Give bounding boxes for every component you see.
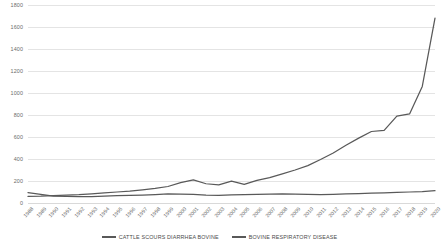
x-tick-label-2013: 2013 xyxy=(340,206,352,219)
series-line-2 xyxy=(28,18,435,196)
x-tick-label-1997: 1997 xyxy=(137,206,149,219)
y-tick-label-400: 400 xyxy=(14,156,23,162)
x-tick-label-2009: 2009 xyxy=(289,206,301,219)
x-tick-label-1991: 1991 xyxy=(60,206,72,219)
x-tick-label-2014: 2014 xyxy=(353,206,365,219)
x-tick-label-2017: 2017 xyxy=(391,206,403,219)
series-layer xyxy=(28,5,435,203)
x-tick-label-2011: 2011 xyxy=(315,206,327,218)
chart-legend: CATTLE SCOURS DIARRHEA BOVINEBOVINE RESP… xyxy=(0,231,439,243)
x-tick-label-1990: 1990 xyxy=(48,206,60,219)
x-tick-label-2000: 2000 xyxy=(175,206,187,219)
gridline-0 xyxy=(28,203,435,204)
x-tick-label-1998: 1998 xyxy=(149,206,161,219)
y-tick-label-0: 0 xyxy=(20,200,23,206)
x-tick-label-1999: 1999 xyxy=(162,206,174,219)
x-tick-label-2018: 2018 xyxy=(404,206,416,219)
x-tick-label-2001: 2001 xyxy=(187,206,199,219)
x-axis: 1988198919901991199219931994199519961997… xyxy=(28,205,435,231)
x-tick-label-2010: 2010 xyxy=(302,206,314,219)
legend-swatch-icon xyxy=(232,236,246,238)
legend-label: CATTLE SCOURS DIARRHEA BOVINE xyxy=(119,234,219,240)
y-axis: 180016001400120010008006004002000 xyxy=(0,0,26,208)
y-tick-label-1400: 1400 xyxy=(11,46,23,52)
y-tick-label-1800: 1800 xyxy=(11,2,23,8)
x-tick-label-2008: 2008 xyxy=(277,206,289,219)
y-tick-label-1000: 1000 xyxy=(11,90,23,96)
x-tick-label-1993: 1993 xyxy=(86,206,98,219)
x-tick-label-1995: 1995 xyxy=(111,206,123,219)
x-tick-label-1989: 1989 xyxy=(35,206,47,219)
x-tick-label-2006: 2006 xyxy=(251,206,263,219)
y-tick-label-200: 200 xyxy=(14,178,23,184)
x-tick-label-2012: 2012 xyxy=(327,206,339,219)
x-tick-label-1996: 1996 xyxy=(124,206,136,219)
x-tick-label-2005: 2005 xyxy=(238,206,250,219)
x-tick-label-2003: 2003 xyxy=(213,206,225,219)
plot-area xyxy=(28,5,435,203)
legend-label: BOVINE RESPIRATORY DISEASE xyxy=(249,234,338,240)
x-tick-label-1992: 1992 xyxy=(73,206,85,219)
x-tick-label-2004: 2004 xyxy=(226,206,238,219)
x-tick-label-1994: 1994 xyxy=(98,206,110,219)
x-tick-label-2002: 2002 xyxy=(200,206,212,219)
x-tick-label-2015: 2015 xyxy=(366,206,378,219)
x-tick-label-2016: 2016 xyxy=(378,206,390,219)
y-tick-label-1200: 1200 xyxy=(11,68,23,74)
y-tick-label-800: 800 xyxy=(14,112,23,118)
legend-item-1[interactable]: CATTLE SCOURS DIARRHEA BOVINE xyxy=(102,234,219,240)
y-tick-label-600: 600 xyxy=(14,134,23,140)
legend-swatch-icon xyxy=(102,236,116,238)
y-tick-label-1600: 1600 xyxy=(11,24,23,30)
x-tick-label-2019: 2019 xyxy=(416,206,428,219)
x-tick-label-2007: 2007 xyxy=(264,206,276,219)
x-tick-label-2020: 2020 xyxy=(429,206,441,219)
legend-item-2[interactable]: BOVINE RESPIRATORY DISEASE xyxy=(232,234,338,240)
